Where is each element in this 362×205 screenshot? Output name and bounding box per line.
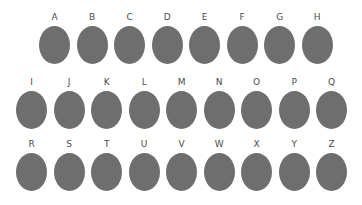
shape-row-1: A B C D E F G H xyxy=(36,12,336,64)
shape-cell-y[interactable]: Y xyxy=(276,139,314,191)
shape-cell-x[interactable]: X xyxy=(238,139,276,191)
shape-label-p: P xyxy=(291,77,297,88)
shape-cell-l[interactable]: L xyxy=(126,77,164,129)
shape-cell-o[interactable]: O xyxy=(238,77,276,129)
shape-cell-s[interactable]: S xyxy=(51,139,89,191)
shape-cell-k[interactable]: K xyxy=(88,77,126,129)
ellipse-a[interactable] xyxy=(39,26,70,64)
ellipse-y[interactable] xyxy=(279,153,310,191)
shape-label-r: R xyxy=(29,139,35,150)
ellipse-w[interactable] xyxy=(204,153,235,191)
shape-cell-c[interactable]: C xyxy=(111,12,149,64)
ellipse-b[interactable] xyxy=(77,26,108,64)
ellipse-q[interactable] xyxy=(316,91,347,129)
ellipse-t[interactable] xyxy=(91,153,122,191)
ellipse-m[interactable] xyxy=(166,91,197,129)
shape-cell-t[interactable]: T xyxy=(88,139,126,191)
shape-cell-u[interactable]: U xyxy=(126,139,164,191)
ellipse-d[interactable] xyxy=(152,26,183,64)
shape-label-w: W xyxy=(215,139,224,150)
shape-cell-q[interactable]: Q xyxy=(313,77,351,129)
shape-label-j: J xyxy=(68,77,71,88)
shape-label-t: T xyxy=(104,139,110,150)
shape-label-f: F xyxy=(240,12,245,23)
shape-cell-z[interactable]: Z xyxy=(313,139,351,191)
ellipse-i[interactable] xyxy=(16,91,47,129)
shape-label-h: H xyxy=(314,12,321,23)
ellipse-r[interactable] xyxy=(16,153,47,191)
ellipse-o[interactable] xyxy=(241,91,272,129)
ellipse-h[interactable] xyxy=(302,26,333,64)
shape-label-e: E xyxy=(202,12,208,23)
shape-label-x: X xyxy=(254,139,260,150)
shape-cell-n[interactable]: N xyxy=(201,77,239,129)
shape-row-2: I J K L M N O P xyxy=(13,77,351,129)
ellipse-p[interactable] xyxy=(279,91,310,129)
shape-label-y: Y xyxy=(291,139,297,150)
shape-cell-e[interactable]: E xyxy=(186,12,224,64)
ellipse-c[interactable] xyxy=(114,26,145,64)
shape-cell-a[interactable]: A xyxy=(36,12,74,64)
shape-label-k: K xyxy=(104,77,110,88)
shape-cell-j[interactable]: J xyxy=(51,77,89,129)
shape-label-l: L xyxy=(142,77,147,88)
ellipse-j[interactable] xyxy=(54,91,85,129)
shape-cell-w[interactable]: W xyxy=(201,139,239,191)
shape-label-a: A xyxy=(52,12,58,23)
shape-cell-b[interactable]: B xyxy=(74,12,112,64)
ellipse-v[interactable] xyxy=(166,153,197,191)
shape-label-m: M xyxy=(178,77,186,88)
shape-cell-i[interactable]: I xyxy=(13,77,51,129)
ellipse-k[interactable] xyxy=(91,91,122,129)
shape-label-c: C xyxy=(127,12,133,23)
shape-cell-h[interactable]: H xyxy=(299,12,337,64)
shape-label-g: G xyxy=(276,12,283,23)
shape-cell-r[interactable]: R xyxy=(13,139,51,191)
ellipse-u[interactable] xyxy=(129,153,160,191)
shape-cell-g[interactable]: G xyxy=(261,12,299,64)
shape-row-3: R S T U V W X Y xyxy=(13,139,351,191)
shape-label-s: S xyxy=(66,139,72,150)
shape-cell-m[interactable]: M xyxy=(163,77,201,129)
ellipse-z[interactable] xyxy=(316,153,347,191)
shape-label-q: Q xyxy=(328,77,335,88)
shape-cell-p[interactable]: P xyxy=(276,77,314,129)
shape-label-u: U xyxy=(141,139,148,150)
shape-cell-v[interactable]: V xyxy=(163,139,201,191)
ellipse-f[interactable] xyxy=(227,26,258,64)
ellipse-l[interactable] xyxy=(129,91,160,129)
shape-cell-d[interactable]: D xyxy=(149,12,187,64)
ellipse-x[interactable] xyxy=(241,153,272,191)
shape-label-b: B xyxy=(89,12,95,23)
figure-canvas: A B C D E F G H xyxy=(0,0,362,205)
shape-label-v: V xyxy=(179,139,185,150)
shape-cell-f[interactable]: F xyxy=(224,12,262,64)
shape-label-z: Z xyxy=(329,139,335,150)
shape-label-n: N xyxy=(216,77,223,88)
ellipse-s[interactable] xyxy=(54,153,85,191)
shape-label-d: D xyxy=(164,12,171,23)
shape-label-o: O xyxy=(253,77,260,88)
shape-label-i: I xyxy=(30,77,33,88)
ellipse-g[interactable] xyxy=(264,26,295,64)
ellipse-n[interactable] xyxy=(204,91,235,129)
ellipse-e[interactable] xyxy=(189,26,220,64)
